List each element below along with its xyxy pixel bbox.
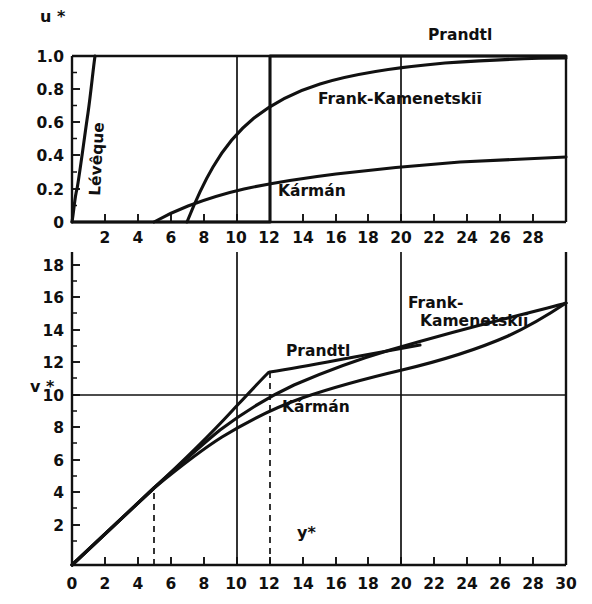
label-frank-kamenetskii-upper: Frank-Kamenetskiĭ <box>318 90 482 108</box>
lower-xtick-label: 12 <box>258 575 280 593</box>
upper-xtick-label: 8 <box>199 229 210 247</box>
lower-xtick-label: 14 <box>292 575 314 593</box>
lower-xtick-label: 28 <box>522 575 544 593</box>
lower-xtick-label: 16 <box>325 575 347 593</box>
lower-y-tick-labels: 18 16 14 12 10 8 6 4 2 <box>42 257 64 535</box>
upper-xtick-label: 28 <box>522 229 544 247</box>
upper-x-tick-labels: 2 4 6 8 10 12 14 16 18 20 22 24 26 28 <box>100 229 544 247</box>
upper-ytick-label: 1.0 <box>37 48 65 66</box>
label-frank-lower-line2: Kamenetskiĭ <box>420 312 529 330</box>
lower-xtick-label: 22 <box>423 575 445 593</box>
curve-karman-upper <box>154 157 566 222</box>
label-leveque-upper: Lévêque <box>86 122 108 196</box>
upper-ytick-label: 0.6 <box>37 114 64 132</box>
curve-frank-kamenetskii-upper <box>187 58 566 222</box>
upper-xtick-label: 20 <box>390 229 412 247</box>
label-karman-upper: Kármán <box>278 182 346 200</box>
lower-xtick-label: 4 <box>133 575 144 593</box>
lower-xtick-label: 6 <box>166 575 177 593</box>
upper-xtick-label: 10 <box>225 229 247 247</box>
upper-panel: u * 1.0 0.8 0.6 0.4 0.2 0 2 4 6 8 10 12 … <box>37 7 566 247</box>
upper-xtick-label: 16 <box>325 229 347 247</box>
upper-ytick-label: 0.4 <box>37 147 65 165</box>
upper-y-axis-title: u * <box>40 7 66 26</box>
lower-ytick-label: 6 <box>53 452 64 470</box>
upper-xtick-label: 18 <box>357 229 379 247</box>
lower-ytick-label: 2 <box>53 517 64 535</box>
lower-xtick-label: 26 <box>489 575 511 593</box>
lower-ytick-label: 8 <box>53 419 64 437</box>
lower-xtick-label: 30 <box>555 575 577 593</box>
upper-xtick-label: 6 <box>166 229 177 247</box>
label-frank-lower-line1: Frank- <box>408 294 463 312</box>
lower-xtick-label: 24 <box>456 575 478 593</box>
lower-ytick-label: 18 <box>42 257 64 275</box>
lower-xtick-label: 0 <box>67 575 78 593</box>
upper-ytick-label: 0 <box>53 214 64 232</box>
scientific-figure: u * 1.0 0.8 0.6 0.4 0.2 0 2 4 6 8 10 12 … <box>0 0 592 604</box>
lower-panel: v * y* 18 16 14 12 10 8 6 4 2 0 2 4 6 <box>30 252 577 593</box>
upper-ytick-label: 0.8 <box>37 81 64 99</box>
lower-ytick-label: 16 <box>42 289 64 307</box>
label-prandtl-lower: Prandtl <box>286 342 350 360</box>
lower-xtick-label: 20 <box>390 575 412 593</box>
upper-xtick-label: 4 <box>133 229 144 247</box>
label-prandtl-upper: Prandtl <box>428 26 492 44</box>
upper-xtick-label: 24 <box>456 229 478 247</box>
lower-xtick-label: 8 <box>199 575 210 593</box>
upper-xtick-label: 2 <box>100 229 111 247</box>
lower-ytick-label: 12 <box>42 354 64 372</box>
figure-container: u * 1.0 0.8 0.6 0.4 0.2 0 2 4 6 8 10 12 … <box>0 0 592 604</box>
lower-xtick-label: 2 <box>100 575 111 593</box>
lower-xtick-label: 18 <box>357 575 379 593</box>
upper-xtick-label: 12 <box>258 229 280 247</box>
lower-ytick-label: 10 <box>42 387 64 405</box>
upper-xtick-label: 14 <box>292 229 314 247</box>
upper-y-tick-labels: 1.0 0.8 0.6 0.4 0.2 0 <box>37 48 65 232</box>
upper-ytick-label: 0.2 <box>37 181 64 199</box>
label-karman-lower: Kármán <box>282 398 350 416</box>
upper-xtick-label: 26 <box>489 229 511 247</box>
lower-ytick-label: 4 <box>53 484 64 502</box>
lower-xtick-label: 10 <box>225 575 247 593</box>
lower-x-axis-title: y* <box>297 523 316 542</box>
lower-ytick-label: 14 <box>42 322 64 340</box>
upper-xtick-label: 22 <box>423 229 445 247</box>
lower-x-tick-labels: 0 2 4 6 8 10 12 14 16 18 20 22 24 26 28 … <box>67 575 577 593</box>
